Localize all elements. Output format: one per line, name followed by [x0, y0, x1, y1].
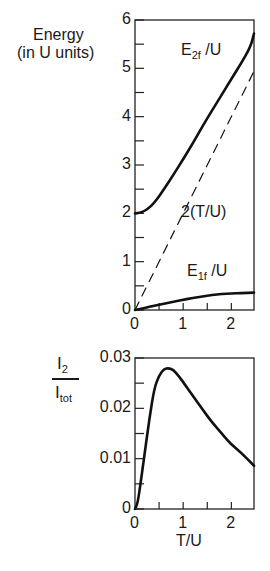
x-tick-label: 2 — [226, 316, 235, 332]
series-e-1f-u — [135, 293, 254, 310]
num-sub: 2 — [62, 363, 68, 375]
y-tick-label: 0.03 — [100, 349, 131, 365]
y-tick-label: 5 — [122, 59, 131, 75]
y-tick-label: 6 — [122, 11, 131, 27]
e1f-main: E — [187, 262, 198, 279]
y-tick-label: 0.02 — [100, 399, 131, 415]
chart-canvas — [0, 0, 270, 571]
annotation-2tu: 2(T/U) — [181, 204, 226, 220]
fraction-bar — [52, 378, 79, 380]
y-tick-label: 0.01 — [100, 450, 131, 466]
bottom-ylabel-numerator: I2 — [57, 355, 68, 375]
annotation-e1f: E1f /U — [187, 263, 227, 282]
annotation-e2f: E2f /U — [181, 42, 221, 61]
y-tick-label: 4 — [122, 108, 131, 124]
x-tick-label: 2 — [226, 515, 235, 531]
x-tick-label: 0 — [130, 316, 139, 332]
top-ylabel-line1: Energy — [33, 27, 84, 43]
y-tick-label: 2 — [122, 204, 131, 220]
y-tick-label: 1 — [122, 253, 131, 269]
bottom-xlabel: T/U — [176, 533, 202, 549]
x-tick-label: 1 — [178, 316, 187, 332]
e2f-sub: 2f — [192, 49, 201, 61]
x-tick-label: 1 — [178, 515, 187, 531]
e2f-main: E — [181, 41, 192, 58]
den-sub: tot — [60, 392, 72, 404]
bottom-plot-frame — [135, 358, 254, 509]
e1f-sub: 1f — [198, 270, 207, 282]
y-tick-label: 3 — [122, 156, 131, 172]
bottom-ylabel-denominator: Itot — [55, 384, 72, 404]
e1f-tail: /U — [207, 262, 227, 279]
x-tick-label: 0 — [130, 515, 139, 531]
e2f-tail: /U — [201, 41, 221, 58]
top-ylabel-line2: (in U units) — [17, 45, 94, 61]
series-i2-itot — [135, 368, 254, 509]
